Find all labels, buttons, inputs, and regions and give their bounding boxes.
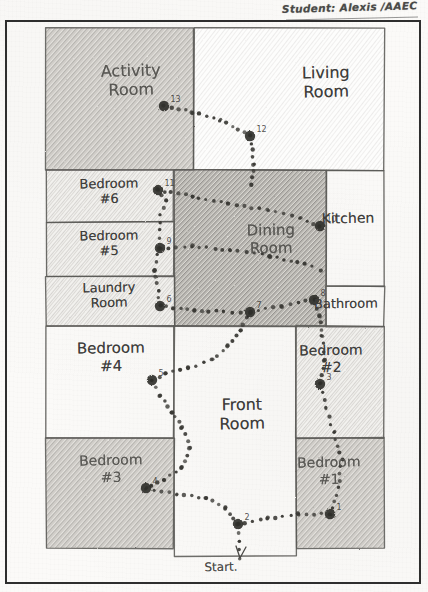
path-dot (179, 307, 182, 310)
path-dot (212, 199, 216, 203)
room-outline-kitchen (326, 170, 384, 286)
path-dot (166, 246, 170, 250)
path-dot (235, 249, 239, 253)
path-dot (339, 464, 342, 467)
path-dot (202, 360, 205, 363)
path-dot (324, 407, 327, 410)
path-dot (231, 517, 235, 521)
path-dot (206, 310, 210, 314)
path-dot (310, 264, 313, 267)
waypoint-number: 2 (245, 513, 250, 522)
path-dot (204, 198, 207, 201)
path-dot (332, 500, 336, 504)
path-dot (163, 399, 167, 403)
room-shading-layer (46, 28, 384, 548)
path-dot (271, 305, 275, 309)
path-dot (167, 490, 171, 494)
path-dot (152, 268, 156, 272)
path-dot (228, 512, 232, 516)
path-dot (249, 183, 253, 187)
path-dot (210, 499, 214, 503)
path-dot (162, 478, 165, 481)
path-dot (289, 302, 293, 306)
path-dot (158, 237, 161, 240)
path-dot (176, 191, 180, 195)
path-dot (312, 513, 316, 517)
path-dot (322, 341, 325, 344)
path-dot (191, 195, 195, 199)
path-dot (338, 479, 342, 483)
waypoint-dot (309, 295, 319, 305)
path-dot (179, 426, 183, 430)
path-dot (159, 221, 162, 224)
waypoint-dot (141, 483, 151, 493)
path-dot (190, 494, 194, 498)
path-dot (242, 204, 246, 208)
path-dot (168, 473, 171, 476)
path-dot (220, 200, 223, 203)
waypoint-number: 10 (327, 215, 337, 224)
path-dot (282, 212, 286, 216)
path-dot (185, 307, 189, 311)
waypoint-number: 13 (171, 95, 181, 104)
path-dot (322, 367, 325, 370)
path-dot (226, 201, 230, 205)
path-dot (212, 116, 215, 119)
path-dot (155, 281, 159, 285)
path-dot (205, 245, 208, 248)
path-dot (245, 250, 249, 254)
path-dot (236, 128, 240, 132)
path-dot (223, 505, 227, 509)
path-dot (322, 350, 325, 353)
path-dot (187, 446, 191, 450)
waypoint-dot (325, 509, 335, 519)
room-shade-dining-room (174, 170, 326, 326)
path-dot (319, 269, 323, 273)
path-dot (169, 190, 173, 194)
path-dot (169, 411, 173, 415)
path-dot (176, 107, 180, 111)
path-dot (273, 516, 277, 520)
waypoint-number: 11 (165, 179, 175, 188)
path-dot (317, 313, 321, 317)
waypoint-2: 2 (233, 513, 250, 530)
path-dot (194, 365, 197, 368)
path-dot (281, 515, 284, 518)
path-dot (297, 301, 301, 305)
path-dot (275, 255, 278, 258)
path-dot (222, 310, 225, 313)
path-dot (163, 190, 167, 194)
path-dot (237, 531, 241, 535)
path-dot (153, 275, 157, 279)
path-dot (215, 354, 219, 358)
path-dot (153, 489, 156, 492)
path-dot (175, 470, 178, 473)
room-shade-bedroom-2 (296, 326, 384, 438)
path-dot (257, 206, 261, 210)
waypoint-5: 5 (147, 369, 164, 386)
path-dot (259, 518, 263, 522)
path-dot (184, 108, 188, 112)
waypoint-number: 9 (167, 237, 172, 246)
path-dot (320, 328, 324, 332)
room-shade-bedroom-5 (46, 222, 174, 276)
path-dot (251, 147, 255, 151)
path-dot (280, 305, 284, 309)
waypoint-dot (315, 221, 325, 231)
path-dot (159, 213, 162, 216)
path-dot (238, 329, 242, 333)
path-dot (306, 220, 309, 223)
path-dot (165, 199, 168, 202)
path-dot (157, 296, 160, 299)
path-dot (329, 423, 332, 426)
waypoint-dot (315, 379, 325, 389)
room-shade-bedroom-6 (46, 170, 174, 222)
path-dot (197, 246, 200, 249)
waypoint-number: 3 (327, 373, 332, 382)
path-dot (235, 203, 239, 207)
path-dot (158, 228, 161, 231)
path-dot (225, 343, 229, 347)
path-dot (163, 371, 167, 375)
waypoint-dot (245, 131, 255, 141)
floor-plan-svg: 12345678910111213 (42, 24, 388, 558)
